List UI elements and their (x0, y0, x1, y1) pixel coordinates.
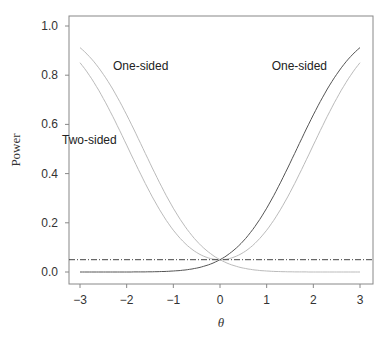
plot-frame (69, 16, 373, 284)
y-tick-label: 0.6 (41, 117, 58, 131)
y-tick-label: 0.8 (41, 68, 58, 82)
one-sided-lower-curve (80, 48, 360, 272)
two-sided-curve (80, 63, 360, 260)
x-tick-label: −3 (73, 293, 87, 307)
x-tick-label: 1 (263, 293, 270, 307)
x-tick-label: −2 (120, 293, 134, 307)
y-tick-label: 1.0 (41, 19, 58, 33)
curve-annotation: One-sided (113, 59, 168, 73)
x-tick-label: −1 (166, 293, 180, 307)
x-tick-label: 2 (310, 293, 317, 307)
x-axis-title: θ (218, 315, 225, 330)
series-layer (69, 48, 373, 272)
y-tick-label: 0.4 (41, 167, 58, 181)
y-tick-label: 0.2 (41, 216, 58, 230)
curve-annotation: Two-sided (62, 133, 117, 147)
y-tick-label: 0.0 (41, 265, 58, 279)
x-tick-label: 0 (217, 293, 224, 307)
y-axis-title: Power (8, 133, 23, 167)
x-tick-label: 3 (357, 293, 364, 307)
y-axis: 0.00.20.40.60.81.0 (41, 19, 69, 279)
x-axis: −3−2−10123 (73, 284, 364, 307)
power-curve-chart: 0.00.20.40.60.81.0 −3−2−10123 One-sidedO… (0, 0, 392, 346)
one-sided-upper-curve (80, 48, 360, 272)
curve-annotation: One-sided (272, 59, 327, 73)
